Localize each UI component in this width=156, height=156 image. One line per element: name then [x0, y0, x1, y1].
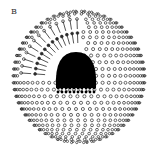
- spherical-assembly-diagram: [0, 0, 156, 156]
- dense-core: [56, 52, 96, 93]
